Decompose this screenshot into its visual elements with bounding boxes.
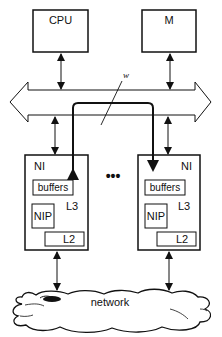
ni-right-l3: L3 (178, 200, 190, 212)
ni-left-node: NI buffers L3 NIP L2 (25, 155, 88, 250)
memory-label: M (164, 14, 173, 26)
diagram-canvas: CPU M w NI buffers L3 NIP L2 ••• NI buff… (0, 0, 222, 337)
ni-left-buffers: buffers (38, 182, 68, 193)
ni-right-l2: L2 (176, 233, 188, 245)
cpu-label: CPU (49, 14, 72, 26)
ni-right-label: NI (181, 160, 192, 172)
ni-left-label: NI (34, 160, 45, 172)
ni-right-node: NI buffers L3 NIP L2 (138, 155, 200, 250)
cpu-node: CPU (33, 10, 88, 52)
memory-node: M (142, 10, 196, 52)
ni-left-l3: L3 (66, 200, 78, 212)
ni-right-buffers: buffers (150, 182, 180, 193)
ni-right-nip: NIP (147, 210, 165, 222)
network-label: network (91, 296, 130, 308)
ni-left-l2: L2 (63, 233, 75, 245)
w-label: w (123, 70, 129, 80)
network-cloud: network (13, 289, 211, 332)
ni-left-nip: NIP (34, 210, 52, 222)
ellipsis: ••• (106, 168, 121, 184)
